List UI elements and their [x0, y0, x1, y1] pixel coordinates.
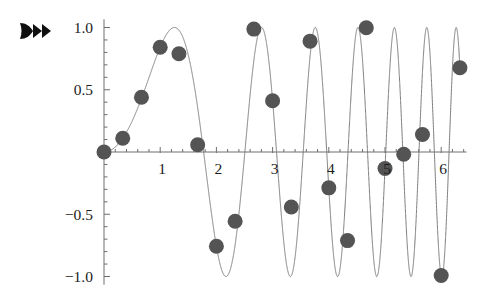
- axes: [104, 19, 466, 284]
- x-tick-label: 1: [158, 160, 166, 177]
- x-tick-label: 3: [271, 160, 279, 177]
- x-tick-label: 5: [383, 160, 391, 177]
- sample-marker: [209, 239, 224, 254]
- y-tick-label: −0.5: [65, 206, 93, 223]
- sample-marker: [134, 90, 149, 105]
- y-tick-label: 1.0: [74, 19, 94, 36]
- y-tick-label: 0.5: [74, 81, 94, 98]
- chart-plot-area: −1.0−0.50.51.0123456: [0, 0, 504, 292]
- chart-figure: −1.0−0.50.51.0123456: [0, 0, 504, 292]
- y-tick-label: −1.0: [65, 268, 93, 285]
- sample-marker: [115, 131, 130, 146]
- sample-marker: [452, 60, 467, 75]
- sample-marker: [396, 147, 411, 162]
- x-tick-label: 4: [327, 160, 335, 177]
- sample-marker: [359, 20, 374, 35]
- sample-marker: [434, 268, 449, 283]
- x-tick-label: 2: [215, 160, 223, 177]
- sample-marker: [190, 137, 205, 152]
- sample-marker: [340, 233, 355, 248]
- sample-marker: [284, 199, 299, 214]
- sample-marker: [171, 46, 186, 61]
- sample-marker: [228, 214, 243, 229]
- sample-marker: [303, 34, 318, 49]
- sample-marker: [415, 127, 430, 142]
- x-tick-label: 6: [439, 160, 447, 177]
- sample-marker: [97, 145, 112, 160]
- sample-marker: [246, 22, 261, 37]
- sample-marker: [321, 180, 336, 195]
- sample-marker: [265, 93, 280, 108]
- sample-marker: [153, 40, 168, 55]
